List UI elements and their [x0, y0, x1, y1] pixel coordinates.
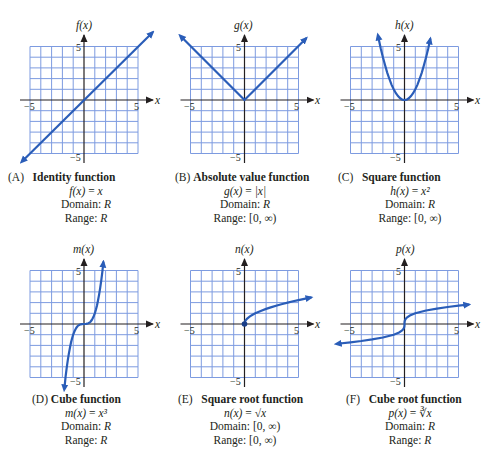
tick-x-neg: −5: [24, 101, 35, 112]
x-axis-label: x: [474, 318, 481, 330]
tick-x-neg: −5: [184, 101, 195, 112]
function-formula: n(x) = √x: [165, 407, 325, 421]
domain-text: Domain: [0, ∞): [165, 420, 325, 434]
caption-title: (D) Cube function: [6, 393, 166, 407]
caption-title: (B) Absolute value function: [165, 171, 325, 185]
function-name: Cube root function: [369, 393, 462, 405]
y-axis-label: g(x): [234, 19, 253, 32]
domain-text: Domain: R: [6, 420, 166, 434]
function-name: Square root function: [201, 393, 303, 405]
x-axis-label: x: [154, 318, 161, 330]
y-axis-label: h(x): [395, 19, 414, 32]
tick-y-pos: 5: [76, 42, 81, 53]
function-formula: g(x) = |x|: [165, 185, 325, 199]
domain-text: Domain: R: [6, 198, 166, 212]
graph-cube: [20, 259, 153, 387]
start-point-dot: [242, 321, 248, 327]
range-text: Range: [0, ∞): [330, 212, 488, 226]
caption-cube: (D) Cube function m(x) = x³ Domain: R Ra…: [6, 393, 166, 447]
tick-y-pos: 5: [76, 266, 81, 277]
tick-x-neg: −5: [184, 325, 195, 336]
y-axis-label: f(x): [76, 19, 92, 32]
y-axis-label: p(x): [395, 243, 415, 256]
tick-x-pos: 5: [294, 325, 299, 336]
range-text: Range: R: [6, 212, 166, 226]
tick-y-neg: −5: [230, 152, 241, 163]
caption-square: (C) Square function h(x) = x² Domain: R …: [330, 171, 488, 225]
tick-x-neg: −5: [344, 101, 355, 112]
tick-x-neg: −5: [24, 325, 35, 336]
range-text: Range: [0, ∞): [165, 434, 325, 448]
tick-x-pos: 5: [454, 101, 459, 112]
square-root-curve: [245, 297, 312, 324]
x-axis-label: x: [314, 94, 321, 106]
tick-y-pos: 5: [396, 42, 401, 53]
caption-title: (A) Identity function: [6, 171, 166, 185]
x-axis-label: x: [474, 94, 481, 106]
tick-y-pos: 5: [236, 266, 241, 277]
function-graphs: f(x) x −5 5 5 −5 g(x) x −5 5 5 −5: [0, 0, 488, 461]
tick-y-neg: −5: [70, 376, 81, 387]
range-text: Range: R: [6, 434, 166, 448]
graph-identity: [20, 32, 153, 163]
range-text: Range: R: [330, 434, 488, 448]
tick-x-pos: 5: [294, 101, 299, 112]
range-text: Range: [0, ∞): [165, 212, 325, 226]
graph-absolute-value: [181, 35, 314, 163]
caption-title: (C) Square function: [330, 171, 488, 185]
caption-absolute-value: (B) Absolute value function g(x) = |x| D…: [165, 171, 325, 225]
domain-text: Domain: R: [165, 198, 325, 212]
tick-x-pos: 5: [454, 325, 459, 336]
function-formula: m(x) = x³: [6, 407, 166, 421]
function-name: Square function: [362, 171, 441, 183]
graph-square: [341, 35, 474, 163]
tick-y-neg: −5: [230, 376, 241, 387]
tick-x-pos: 5: [134, 101, 139, 112]
domain-text: Domain: R: [330, 420, 488, 434]
x-axis-label: x: [314, 318, 321, 330]
tick-x-pos: 5: [134, 325, 139, 336]
domain-text: Domain: R: [330, 198, 488, 212]
identity-curve: [24, 32, 153, 160]
function-formula: p(x) = ∛x: [330, 407, 488, 421]
function-formula: h(x) = x²: [330, 185, 488, 199]
y-axis-label: m(x): [73, 243, 94, 256]
tick-y-neg: −5: [390, 152, 401, 163]
tick-y-pos: 5: [236, 42, 241, 53]
tick-x-neg: −5: [344, 325, 355, 336]
x-axis-label: x: [154, 94, 161, 106]
tick-y-pos: 5: [396, 266, 401, 277]
caption-cube-root: (F) Cube root function p(x) = ∛x Domain:…: [330, 393, 488, 447]
caption-title: (E) Square root function: [165, 393, 325, 407]
caption-square-root: (E) Square root function n(x) = √x Domai…: [165, 393, 325, 447]
function-formula: f(x) = x: [6, 185, 166, 199]
function-name: Cube function: [51, 393, 121, 405]
graph-cube-root: [340, 259, 474, 387]
graph-square-root: [181, 259, 314, 387]
function-name: Absolute value function: [193, 171, 309, 183]
caption-title: (F) Cube root function: [330, 393, 488, 407]
y-axis-label: n(x): [235, 243, 254, 256]
tick-y-neg: −5: [390, 376, 401, 387]
function-name: Identity function: [33, 171, 116, 183]
caption-identity: (A) Identity function f(x) = x Domain: R…: [6, 171, 166, 225]
tick-y-neg: −5: [70, 152, 81, 163]
